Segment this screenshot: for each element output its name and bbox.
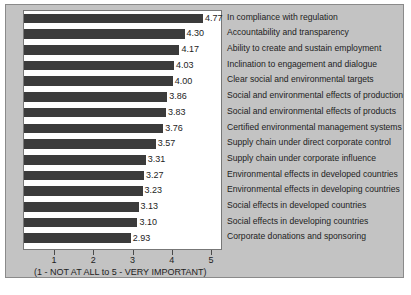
bar-row: 4.03 [24, 59, 221, 75]
bar [24, 186, 143, 196]
category-label: Accountability and transparency [227, 26, 349, 39]
bar-row: 3.10 [24, 216, 221, 232]
bar-row: 4.17 [24, 43, 221, 59]
bar [24, 171, 144, 181]
bar [24, 14, 203, 24]
bar-row: 4.30 [24, 27, 221, 43]
tick-label: 3 [130, 254, 135, 266]
category-label: Supply chain under corporate influence [227, 152, 376, 165]
bar [24, 202, 139, 212]
category-label: Social and environmental effects of prod… [227, 89, 403, 102]
bar-value-label: 3.23 [145, 184, 163, 197]
bar [24, 155, 146, 165]
category-label: Social and environmental effects of prod… [227, 105, 396, 118]
bar [24, 76, 173, 86]
bar-value-label: 3.83 [168, 106, 186, 119]
tick-label: 2 [91, 254, 96, 266]
bar [24, 218, 137, 228]
bar-row: 3.13 [24, 200, 221, 216]
bar-value-label: 4.00 [175, 75, 193, 88]
bar-row: 3.76 [24, 122, 221, 138]
tick-label: 4 [169, 254, 174, 266]
bar-value-label: 2.93 [133, 232, 151, 245]
bar-value-label: 3.10 [139, 216, 157, 229]
bar-value-label: 4.77 [205, 12, 223, 25]
bar-row: 3.86 [24, 90, 221, 106]
plot-area: 4.774.304.174.034.003.863.833.763.573.31… [23, 10, 222, 250]
category-label: Environmental effects in developing coun… [227, 183, 400, 196]
bar-value-label: 4.03 [176, 59, 194, 72]
category-label: Corporate donations and sponsoring [227, 230, 366, 243]
bar-value-label: 3.86 [169, 90, 187, 103]
bar-row: 3.83 [24, 106, 221, 122]
bar-row: 4.00 [24, 74, 221, 90]
category-label: Inclination to engagement and dialogue [227, 58, 377, 71]
bar-row: 4.77 [24, 12, 221, 28]
category-label: Ability to create and sustain employment [227, 42, 381, 55]
bar-row: 3.57 [24, 137, 221, 153]
bar-row: 3.23 [24, 184, 221, 200]
category-label: Clear social and environmental targets [227, 73, 374, 86]
bar [24, 233, 131, 243]
bar-row: 3.27 [24, 169, 221, 185]
bar [24, 45, 179, 55]
bar [24, 92, 167, 102]
bar [24, 139, 156, 149]
x-axis-caption: (1 - NOT AT ALL to 5 - VERY IMPORTANT) [34, 266, 207, 278]
category-label: Environmental effects in developed count… [227, 168, 398, 181]
bar-value-label: 3.76 [165, 122, 183, 135]
bar-value-label: 3.13 [141, 200, 159, 213]
bar-value-label: 3.27 [146, 169, 164, 182]
bar [24, 124, 163, 134]
bar-row: 2.93 [24, 231, 221, 247]
category-label: Social effects in developed countries [227, 199, 366, 212]
tick-label: 1 [51, 254, 56, 266]
category-label-panel: In compliance with regulationAccountabil… [222, 10, 403, 250]
bar-value-label: 4.30 [187, 27, 205, 40]
bar-value-label: 3.31 [148, 153, 166, 166]
tick-label: 5 [208, 254, 213, 266]
bar-row: 3.31 [24, 153, 221, 169]
bar [24, 108, 166, 118]
category-label: In compliance with regulation [227, 11, 338, 24]
bar-value-label: 3.57 [158, 137, 176, 150]
bar-series: 4.774.304.174.034.003.863.833.763.573.31… [24, 11, 221, 249]
category-label: Supply chain under direct corporate cont… [227, 136, 391, 149]
bar [24, 29, 185, 39]
bar-value-label: 4.17 [181, 43, 199, 56]
category-label: Certified environmental management syste… [227, 121, 402, 134]
category-label: Social effects in developing countries [227, 215, 368, 228]
bar [24, 61, 174, 71]
chart-figure: 4.774.304.174.034.003.863.833.763.573.31… [5, 4, 404, 278]
